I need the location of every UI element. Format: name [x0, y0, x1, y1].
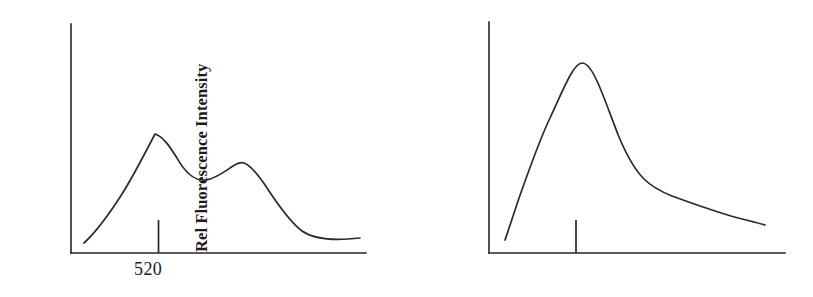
- right-plot-area: [406, 0, 813, 297]
- right-emission-curve: [505, 63, 765, 240]
- figure-container: Rel Fluorescence Intensity 520 Rel Fluor…: [0, 0, 813, 297]
- y-axis-label-right-text: Rel Fluorescence Intensity: [192, 64, 211, 252]
- x-tick-label-left: 520: [134, 259, 162, 280]
- right-spectrum-panel: Rel Fluorescence Intensity 520: [406, 0, 813, 297]
